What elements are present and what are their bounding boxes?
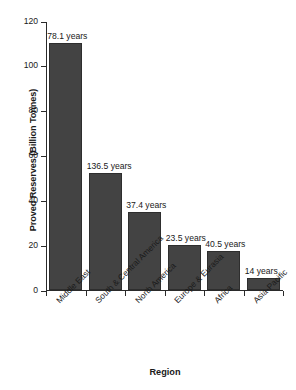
y-tick: 100 — [41, 66, 46, 67]
y-tick-label: 20 — [14, 240, 38, 250]
x-tick — [244, 291, 245, 296]
x-axis-title: Region — [40, 367, 290, 377]
x-tick — [283, 291, 284, 296]
bar-value-label: 14 years — [245, 266, 278, 276]
y-axis-title: Proved Reserves (Billion Tonnes) — [28, 50, 38, 270]
y-tick-label: 60 — [14, 150, 38, 160]
bar-value-label: 78.1 years — [47, 31, 87, 41]
x-tick — [165, 291, 166, 296]
x-tick — [204, 291, 205, 296]
y-tick: 120 — [41, 22, 46, 23]
x-tick — [125, 291, 126, 296]
x-tick — [46, 291, 47, 296]
bar-value-label: 40.5 years — [205, 239, 245, 249]
y-tick: 40 — [41, 201, 46, 202]
y-tick-label: 0 — [14, 285, 38, 295]
bar-value-label: 37.4 years — [126, 200, 166, 210]
bar-value-label: 23.5 years — [166, 233, 206, 243]
x-tick — [86, 291, 87, 296]
y-axis-line — [46, 22, 47, 291]
plot-area: 020406080100120 78.1 years136.5 years37.… — [46, 22, 283, 291]
y-tick: 80 — [41, 111, 46, 112]
bar — [49, 43, 82, 290]
y-tick: 60 — [41, 156, 46, 157]
y-tick-label: 80 — [14, 105, 38, 115]
y-tick-label: 100 — [14, 60, 38, 70]
bar-value-label: 136.5 years — [87, 161, 132, 171]
y-tick-label: 120 — [14, 16, 38, 26]
y-tick-label: 40 — [14, 195, 38, 205]
y-tick: 20 — [41, 246, 46, 247]
bar-chart: Proved Reserves (Billion Tonnes) 0204060… — [0, 0, 296, 390]
